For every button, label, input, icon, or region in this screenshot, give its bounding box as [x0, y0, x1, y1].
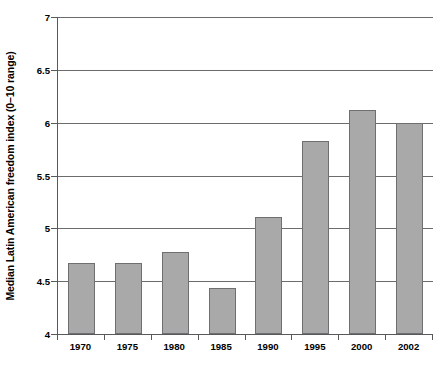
- y-tick-label-6: 6: [0, 117, 50, 128]
- x-tick-mark-5: [291, 334, 292, 340]
- x-tick-mark-2: [151, 334, 152, 340]
- gridline-6: [58, 123, 433, 124]
- gridline-5: [58, 228, 433, 229]
- x-tick-mark-1: [104, 334, 105, 340]
- gridline-5.5: [58, 176, 433, 177]
- x-tick-mark-6: [338, 334, 339, 340]
- gridline-4: [58, 334, 433, 335]
- caption-remnant: [2, 363, 302, 374]
- bar-1995: [302, 141, 329, 334]
- bar-1985: [209, 288, 236, 334]
- bar-1975: [115, 263, 142, 334]
- bar-1980: [162, 252, 189, 334]
- bar-2000: [349, 110, 376, 334]
- x-tick-mark-8: [432, 334, 433, 340]
- x-tick-label-2002: 2002: [379, 341, 439, 352]
- y-tick-label-7: 7: [0, 12, 50, 23]
- y-tick-label-5: 5: [0, 223, 50, 234]
- x-tick-mark-4: [245, 334, 246, 340]
- y-tick-label-4: 4: [0, 329, 50, 340]
- plot-area: [57, 17, 433, 334]
- x-tick-mark-0: [57, 334, 58, 340]
- bar-2002: [396, 123, 423, 334]
- y-tick-label-5.5: 5.5: [0, 170, 50, 181]
- y-tick-label-6.5: 6.5: [0, 64, 50, 75]
- gridline-7: [58, 17, 433, 18]
- bar-chart-figure: Median Latin American freedom index (0–1…: [0, 0, 439, 374]
- bar-1990: [255, 217, 282, 334]
- gridline-6.5: [58, 70, 433, 71]
- bar-1970: [68, 263, 95, 334]
- y-tick-label-4.5: 4.5: [0, 276, 50, 287]
- x-tick-mark-7: [385, 334, 386, 340]
- x-tick-mark-3: [198, 334, 199, 340]
